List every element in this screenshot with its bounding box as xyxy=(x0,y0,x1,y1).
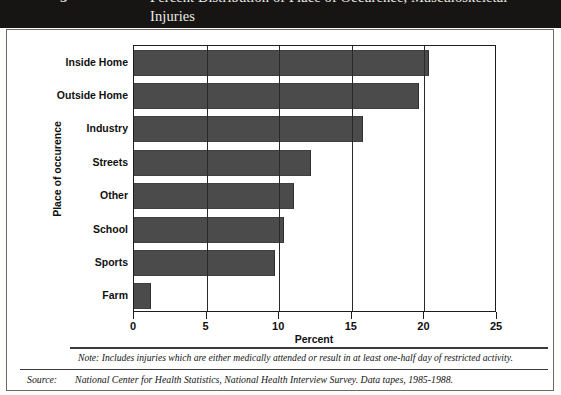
x-axis-tick xyxy=(206,312,207,319)
gridline xyxy=(352,46,353,311)
plot-area xyxy=(133,45,496,312)
bar-row xyxy=(134,180,495,213)
x-axis-tick xyxy=(278,312,279,319)
x-axis-tick xyxy=(423,312,424,319)
note-rule xyxy=(70,347,548,349)
bar xyxy=(134,250,275,276)
x-axis-tick-label: 25 xyxy=(490,320,502,332)
bar-chart: Place of occurence Inside HomeOutside Ho… xyxy=(0,0,561,330)
source-row: Source: National Center for Health Stati… xyxy=(27,374,547,386)
bar-row xyxy=(134,46,495,79)
y-axis-label: School xyxy=(33,223,128,235)
y-axis-label: Industry xyxy=(33,122,128,134)
bar-row xyxy=(134,113,495,146)
y-axis-title: Place of occurence xyxy=(51,121,63,217)
x-axis-tick-label: 15 xyxy=(345,320,357,332)
bar xyxy=(134,50,429,76)
x-axis-tick-label: 20 xyxy=(417,320,429,332)
bar xyxy=(134,83,419,109)
gridline xyxy=(424,46,425,311)
bar xyxy=(134,150,311,176)
bar-row xyxy=(134,213,495,246)
source-label: Source: xyxy=(27,374,57,386)
x-axis-tick-label: 5 xyxy=(203,320,209,332)
y-axis-label: Other xyxy=(33,189,128,201)
y-axis-label: Outside Home xyxy=(33,89,128,101)
x-axis-tick-label: 10 xyxy=(272,320,284,332)
bar xyxy=(134,183,294,209)
x-axis-tick xyxy=(496,312,497,319)
y-axis-label: Inside Home xyxy=(33,56,128,68)
y-axis-label: Farm xyxy=(33,289,128,301)
bar-row xyxy=(134,280,495,313)
bar xyxy=(134,217,284,243)
figure-page: 5 Percent Distribution of Place of Occur… xyxy=(0,0,561,395)
bar-row xyxy=(134,79,495,112)
bar xyxy=(134,116,363,142)
gridline xyxy=(207,46,208,311)
x-axis-tick xyxy=(133,312,134,319)
bar xyxy=(134,283,151,309)
bar-row xyxy=(134,146,495,179)
y-axis-label: Streets xyxy=(33,156,128,168)
x-axis-title: Percent xyxy=(295,333,334,345)
note-text: Note: Includes injuries which are either… xyxy=(78,352,548,364)
y-axis-labels: Place of occurence Inside HomeOutside Ho… xyxy=(33,45,128,312)
bar-row xyxy=(134,246,495,279)
source-rule xyxy=(20,369,548,370)
y-axis-label: Sports xyxy=(33,256,128,268)
x-axis-tick xyxy=(351,312,352,319)
bar-series xyxy=(134,46,495,311)
x-axis-tick-label: 0 xyxy=(130,320,136,332)
gridline xyxy=(279,46,280,311)
source-text: National Center for Health Statistics, N… xyxy=(75,374,547,386)
